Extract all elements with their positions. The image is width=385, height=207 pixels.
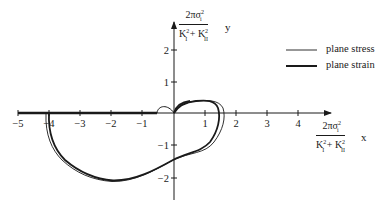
x-axis-label-denominator: K2I + K2II xyxy=(316,136,345,152)
x-tick-label: 2 xyxy=(233,118,238,129)
legend-item-plane-stress: plane stress xyxy=(326,43,375,54)
y-tick-label: 1 xyxy=(164,77,169,88)
x-tick-label: 4 xyxy=(295,118,301,129)
y-axis-variable: y xyxy=(225,21,231,33)
y-tick-label: −1 xyxy=(158,140,169,151)
x-tick-label: −2 xyxy=(105,118,116,129)
x-axis-variable: x xyxy=(361,131,367,143)
x-axis-label: 2πσ2i K2I + K2II xyxy=(316,120,345,153)
y-tick-label: 2 xyxy=(164,45,169,56)
x-tick-label: 1 xyxy=(202,118,207,129)
y-axis-label-denominator: K2I + K2II xyxy=(179,25,208,41)
y-axis-label: 2πσ2i K2I + K2II xyxy=(179,9,208,42)
legend-label: plane strain xyxy=(326,59,375,70)
legend-label: plane stress xyxy=(326,43,375,54)
origin-small-loop xyxy=(157,107,174,113)
x-tick-label: −1 xyxy=(136,118,147,129)
x-tick-label: −5 xyxy=(12,118,23,129)
x-axis-label-numerator: 2πσ2i xyxy=(316,120,345,136)
x-tick-label: 3 xyxy=(264,118,269,129)
y-tick-label: −2 xyxy=(158,173,169,184)
y-axis-label-numerator: 2πσ2i xyxy=(179,9,208,25)
x-tick-label: −3 xyxy=(74,118,85,129)
legend-item-plane-strain: plane strain xyxy=(326,59,375,70)
